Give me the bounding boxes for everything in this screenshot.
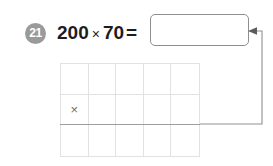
multiplication-operator-icon: ×: [92, 26, 100, 42]
answer-input-box[interactable]: [150, 14, 249, 46]
grid-cell[interactable]: [116, 95, 144, 126]
grid-cell[interactable]: [144, 64, 172, 95]
question-number-badge: 21: [25, 23, 46, 44]
multiplication-operator-icon: ×: [71, 103, 79, 116]
grid-cell[interactable]: [89, 125, 117, 156]
equation: 200 × 70 =: [57, 20, 137, 46]
grid-cell[interactable]: [144, 125, 172, 156]
worksheet-problem: 21 200 × 70 = ×: [0, 0, 273, 166]
left-operand: 200: [57, 22, 89, 44]
grid-cell[interactable]: [89, 64, 117, 95]
grid-cell[interactable]: [116, 64, 144, 95]
grid-cell[interactable]: [116, 125, 144, 156]
product-rule-line: [60, 124, 200, 125]
grid-cell[interactable]: [171, 125, 199, 156]
grid-cell[interactable]: [61, 64, 89, 95]
grid-cell[interactable]: [89, 95, 117, 126]
working-grid[interactable]: ×: [60, 63, 200, 157]
grid-cell[interactable]: [171, 64, 199, 95]
grid-cell[interactable]: [144, 95, 172, 126]
grid-cell[interactable]: [61, 125, 89, 156]
arrowhead-icon: [248, 27, 257, 35]
grid-cell-operator[interactable]: ×: [61, 95, 89, 126]
grid-cell[interactable]: [171, 95, 199, 126]
right-operand: 70: [103, 22, 124, 44]
equals-sign: =: [126, 22, 137, 44]
